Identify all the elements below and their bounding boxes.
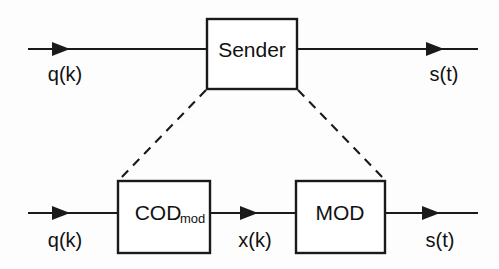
- bottom-middle-arrowhead: [240, 206, 258, 220]
- coder-subscript-label: mod: [180, 211, 205, 226]
- left-expansion-dashed-line: [119, 90, 206, 180]
- bottom-output-wire: [385, 206, 478, 220]
- top-input-label: q(k): [48, 63, 82, 85]
- bottom-middle-label: x(k): [238, 229, 271, 251]
- top-input-arrowhead: [52, 42, 70, 56]
- coder-block[interactable]: COD mod: [118, 181, 210, 253]
- bottom-output-label: s(t): [426, 229, 455, 251]
- modulator-label: MOD: [316, 201, 365, 224]
- sender-block[interactable]: Sender: [207, 19, 297, 89]
- bottom-input-wire: [28, 206, 118, 220]
- bottom-input-label: q(k): [48, 229, 82, 251]
- bottom-middle-wire: [210, 206, 296, 220]
- block-diagram: Sender q(k) s(t) COD mod: [0, 0, 499, 269]
- bottom-input-arrowhead: [52, 206, 70, 220]
- sender-label: Sender: [218, 38, 286, 61]
- top-input-wire: [28, 42, 207, 56]
- top-output-label: s(t): [430, 63, 459, 85]
- modulator-block[interactable]: MOD: [296, 181, 385, 253]
- right-expansion-dashed-line: [298, 90, 385, 180]
- top-output-wire: [297, 42, 478, 56]
- diagram-canvas: Sender q(k) s(t) COD mod: [0, 0, 499, 269]
- bottom-output-arrowhead: [422, 206, 440, 220]
- top-output-arrowhead: [426, 42, 444, 56]
- coder-label: COD: [135, 201, 182, 224]
